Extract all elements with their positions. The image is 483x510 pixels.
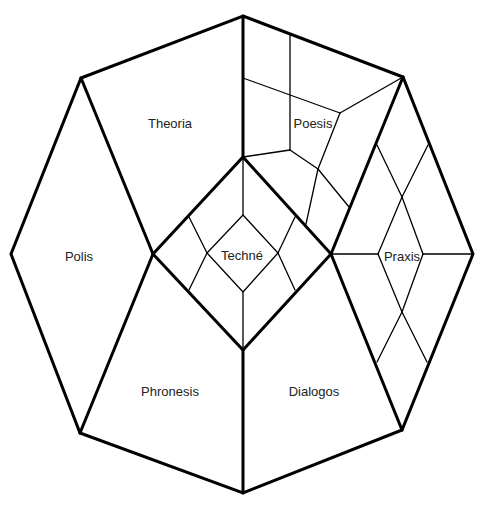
label-techne: Techné [221, 249, 263, 262]
label-praxis: Praxis [384, 250, 420, 263]
label-polis: Polis [65, 250, 93, 263]
label-theoria: Theoria [148, 117, 192, 130]
label-poesis: Poesis [293, 117, 332, 130]
label-phronesis: Phronesis [141, 385, 199, 398]
label-dialogos: Dialogos [289, 385, 340, 398]
